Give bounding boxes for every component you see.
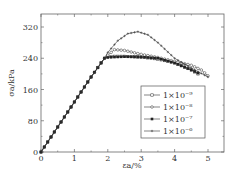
x-tick-label: 4 <box>172 154 177 163</box>
y-tick-label: 320 <box>23 23 38 32</box>
x-tick-label: 0 <box>38 154 43 163</box>
x-tick-label: 2 <box>105 154 110 163</box>
legend-label: 1×10⁻⁸ <box>163 103 192 112</box>
y-tick-labels: 080160240320 <box>23 23 38 157</box>
legend-label: 1×10⁻⁶ <box>163 127 192 136</box>
legend: 1×10⁻⁹1×10⁻⁸1×10⁻⁷1×10⁻⁶ <box>141 86 205 138</box>
x-axis-label: εa/% <box>122 161 142 170</box>
y-tick-label: 240 <box>23 54 38 63</box>
x-tick-label: 5 <box>205 154 210 163</box>
x-tick-label: 1 <box>72 154 77 163</box>
y-tick-label: 80 <box>28 117 38 126</box>
legend-label: 1×10⁻⁹ <box>163 91 193 100</box>
y-tick-label: 0 <box>33 148 38 157</box>
y-tick-label: 160 <box>23 86 38 95</box>
legend-label: 1×10⁻⁷ <box>163 115 192 124</box>
stress-strain-chart: 012345 080160240320 εa/% σa/kPa 1×10⁻⁹1×… <box>0 0 238 188</box>
y-axis-label: σa/kPa <box>7 69 16 97</box>
